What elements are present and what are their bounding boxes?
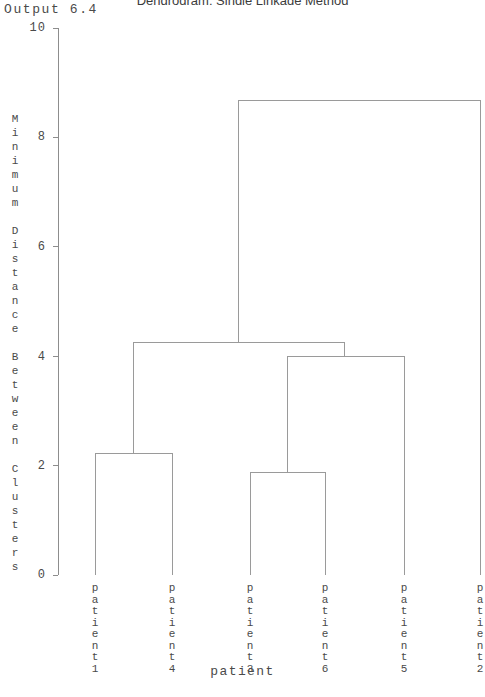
y-axis (53, 28, 58, 575)
dendrogram-figure: Output 6.4 Dendrogram: Single Linkage Me… (0, 0, 485, 697)
dendrogram-link (133, 343, 344, 454)
dendrogram-link (250, 473, 325, 575)
dendrogram-link (287, 356, 404, 575)
dendrogram-links (95, 101, 480, 575)
dendrogram-link (95, 454, 172, 575)
dendrogram-link (238, 101, 480, 575)
dendrogram-plot (0, 0, 485, 697)
